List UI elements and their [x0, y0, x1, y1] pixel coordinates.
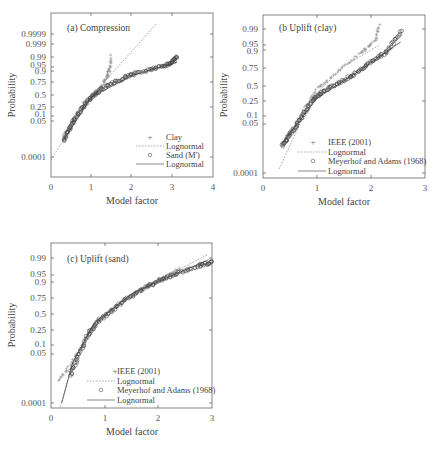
svg-text:0.0001: 0.0001 — [21, 398, 46, 408]
data-point-plus — [325, 79, 328, 82]
legend: + IEEE (2001) Lognormal Meyerhof and Ada… — [298, 137, 427, 176]
svg-text:Meyerhof and Adams (1968): Meyerhof and Adams (1968) — [328, 156, 427, 166]
svg-text:0.9999: 0.9999 — [21, 29, 46, 39]
svg-text:IEEE (2001): IEEE (2001) — [328, 137, 371, 147]
svg-text:1: 1 — [315, 183, 320, 193]
svg-text:0.0001: 0.0001 — [21, 152, 46, 162]
svg-text:0.9: 0.9 — [35, 277, 47, 287]
svg-text:Lognormal: Lognormal — [166, 159, 204, 169]
y-tick-labels: 0.9999 0.999 0.99 0.95 0.9 0.75 0.5 0.25… — [21, 29, 46, 162]
svg-text:0: 0 — [261, 183, 266, 193]
panel-title: (c) Uplift (sand) — [67, 254, 129, 265]
svg-text:0.75: 0.75 — [242, 63, 258, 73]
svg-text:0.5: 0.5 — [35, 309, 47, 319]
svg-text:0.75: 0.75 — [30, 293, 46, 303]
svg-text:0.25: 0.25 — [242, 96, 258, 106]
svg-text:0.05: 0.05 — [242, 118, 258, 128]
panel-title: (a) Compression — [67, 23, 130, 34]
svg-text:3: 3 — [423, 183, 428, 193]
panel-c: 0.99 0.95 0.9 0.75 0.5 0.25 0.1 0.05 0.0… — [6, 243, 216, 437]
data-point-plus — [378, 23, 381, 26]
data-point-plus — [110, 57, 113, 60]
svg-text:0.5: 0.5 — [35, 90, 47, 100]
y-ticks — [51, 34, 213, 157]
svg-text:0.999: 0.999 — [26, 39, 47, 49]
svg-text:IEEE (2001): IEEE (2001) — [117, 366, 160, 376]
svg-text:0.75: 0.75 — [30, 77, 46, 87]
svg-text:1: 1 — [103, 413, 108, 423]
svg-text:0.9: 0.9 — [35, 66, 47, 76]
y-axis-title: Probability — [6, 303, 17, 347]
svg-text:3: 3 — [210, 413, 215, 423]
y-axis-title: Probability — [6, 73, 17, 117]
legend: + IEEE (2001) IEEE (2001) Lognormal Meye… — [87, 366, 216, 405]
panel-a: 0.9999 0.999 0.99 0.95 0.9 0.75 0.5 0.25… — [6, 13, 216, 206]
panel-title: (b Uplift (clay) — [279, 23, 337, 34]
x-axis-title: Model factor — [106, 195, 159, 206]
x-ticks — [91, 13, 172, 177]
x-tick-labels: 0 1 2 3 4 — [49, 182, 216, 192]
svg-text:0.9: 0.9 — [247, 46, 259, 56]
data-point-plus — [344, 63, 347, 66]
x-axis-title: Model factor — [318, 196, 371, 207]
x-axis-title: Model factor — [106, 426, 159, 437]
lognormal-fit-solid — [63, 62, 176, 140]
svg-text:2: 2 — [369, 183, 374, 193]
svg-text:0: 0 — [49, 413, 54, 423]
y-tick-labels: 0.99 0.95 0.9 0.75 0.5 0.25 0.1 0.05 0.0… — [233, 24, 258, 178]
x-tick-labels: 0 1 2 3 — [49, 413, 215, 423]
data-point-plus — [109, 54, 112, 57]
svg-text:Lognormal: Lognormal — [117, 395, 155, 405]
plot-area — [51, 24, 179, 160]
lognormal-fit-dashed — [51, 24, 156, 160]
y-tick-labels: 0.99 0.95 0.9 0.75 0.5 0.25 0.1 0.05 0.0… — [21, 253, 46, 408]
data-point-plus — [361, 49, 364, 52]
figure: 0.9999 0.999 0.99 0.95 0.9 0.75 0.5 0.25… — [0, 0, 435, 451]
svg-text:0.05: 0.05 — [30, 348, 46, 358]
svg-text:+: + — [147, 132, 152, 142]
svg-text:1: 1 — [89, 182, 94, 192]
svg-text:3: 3 — [170, 182, 175, 192]
svg-text:Meyerhof and Adams (1968): Meyerhof and Adams (1968) — [117, 385, 216, 395]
svg-text:Lognormal: Lognormal — [328, 166, 366, 176]
y-axis-title: Probability — [218, 73, 229, 117]
svg-text:+: + — [310, 137, 315, 147]
x-tick-labels: 0 1 2 3 — [261, 183, 428, 193]
svg-text:0.0001: 0.0001 — [233, 168, 258, 178]
legend: + Clay Lognormal Sand (M') Lognormal — [136, 132, 204, 169]
svg-text:0: 0 — [49, 182, 54, 192]
svg-text:0.99: 0.99 — [30, 253, 46, 263]
svg-text:0.25: 0.25 — [30, 325, 46, 335]
svg-text:2: 2 — [129, 182, 134, 192]
svg-text:0.5: 0.5 — [247, 81, 259, 91]
svg-text:2: 2 — [156, 413, 161, 423]
svg-text:0.99: 0.99 — [242, 24, 258, 34]
svg-text:0.05: 0.05 — [30, 116, 46, 126]
data-point-plus — [314, 88, 317, 91]
data-point-plus — [303, 105, 306, 108]
panel-b: 0.99 0.95 0.9 0.75 0.5 0.25 0.1 0.05 0.0… — [218, 15, 428, 207]
svg-text:4: 4 — [211, 182, 216, 192]
